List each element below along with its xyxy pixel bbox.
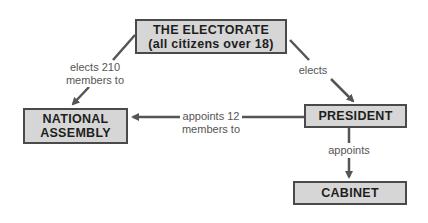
edge-label-elects-president: elects <box>296 64 330 77</box>
edge-label-line1: appoints <box>325 144 373 157</box>
edge-label-appoints-assembly: appoints 12 members to <box>180 110 242 136</box>
president-node: PRESIDENT <box>304 104 407 128</box>
edge-label-line1: appoints 12 <box>180 110 242 123</box>
edge-label-elects-assembly: elects 210 members to <box>62 61 128 87</box>
edge-label-line1: elects <box>296 64 330 77</box>
cabinet-node: CABINET <box>293 181 407 205</box>
edge-label-line1: elects 210 <box>62 61 128 74</box>
electorate-node: THE ELECTORATE (all citizens over 18) <box>135 19 287 54</box>
president-label: PRESIDENT <box>318 109 392 123</box>
cabinet-label: CABINET <box>321 186 379 200</box>
electorate-title: THE ELECTORATE <box>153 23 269 37</box>
national-assembly-line1: NATIONAL <box>42 112 108 126</box>
national-assembly-line2: ASSEMBLY <box>40 126 111 140</box>
edge-label-line2: members to <box>62 74 128 87</box>
edge-label-appoints-cabinet: appoints <box>325 144 373 157</box>
electorate-subtitle: (all citizens over 18) <box>148 37 273 51</box>
edge-label-line2: members to <box>180 123 242 136</box>
national-assembly-node: NATIONAL ASSEMBLY <box>23 108 128 144</box>
